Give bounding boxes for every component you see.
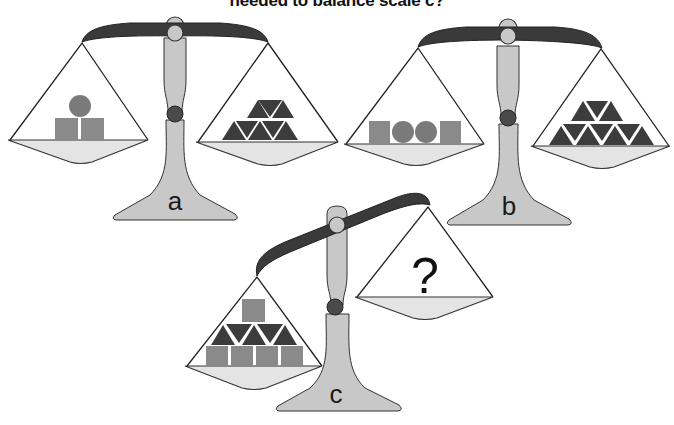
square-weight — [369, 121, 390, 144]
square-weight — [440, 121, 461, 144]
scale-c-node — [327, 299, 343, 315]
circle-weight — [69, 95, 91, 117]
unknown-weight-question-mark: ? — [411, 248, 439, 304]
scale-a-node — [167, 106, 183, 122]
scale-a-post — [164, 38, 186, 112]
scale-c-label: c — [330, 379, 343, 409]
scale-a-label: a — [168, 186, 183, 216]
square-weight — [206, 346, 228, 366]
scale-c-left-pan — [185, 277, 322, 390]
scale-a-right-pan — [196, 43, 338, 166]
scale-b: b — [344, 19, 670, 225]
square-weight — [242, 299, 265, 322]
scale-a-pivot — [167, 25, 183, 41]
square-weight — [281, 346, 303, 366]
scale-b-label: b — [502, 191, 516, 221]
square-weight — [55, 118, 78, 140]
scale-b-pivot — [500, 28, 516, 44]
circle-weight — [415, 121, 437, 143]
balance-puzzle: .beam { fill:#3a3a3a; stroke:#222; strok… — [0, 0, 674, 425]
square-weight — [81, 118, 104, 140]
triangle-weights — [549, 101, 654, 145]
triangle-weights — [222, 100, 298, 140]
scale-c: ? c — [185, 193, 493, 411]
scale-a: a — [8, 17, 338, 220]
scale-b-node — [500, 110, 516, 126]
scale-a-left-pan — [8, 43, 148, 164]
scale-c-pivot — [329, 217, 345, 233]
circle-weight — [392, 121, 414, 143]
scale-b-right-pan — [531, 49, 670, 169]
square-weight — [256, 346, 278, 366]
scale-b-post — [497, 46, 519, 116]
triangle-weights — [211, 324, 297, 345]
square-weight — [231, 346, 253, 366]
scale-b-left-pan — [344, 48, 484, 166]
